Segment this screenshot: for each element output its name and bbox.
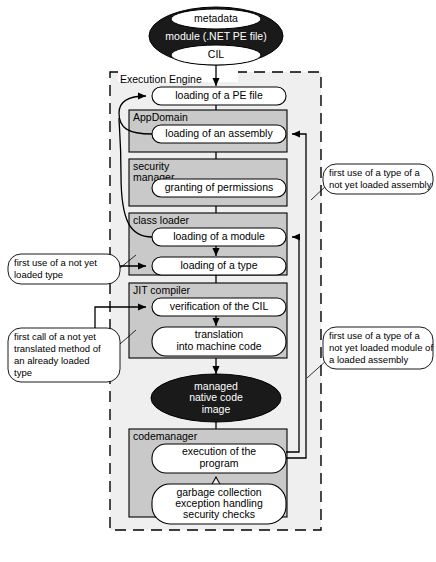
group-jit-compiler-label: JIT compiler [133, 284, 190, 296]
node-loading-module-label: loading of a module [173, 230, 265, 242]
callout-left-method-line1: first call of a not yet [14, 331, 96, 342]
execution-engine-label: Execution Engine [120, 73, 202, 85]
node-granting-permissions-label: granting of permissions [165, 181, 274, 193]
node-runtime-services-label-3: security checks [183, 508, 255, 520]
native-image-label-1: managed [194, 380, 238, 392]
callout-right-assembly-line2: not yet loaded assembly [329, 179, 432, 190]
callout-left-method-line3: an already loaded [14, 355, 90, 366]
node-loading-assembly-label: loading of an assembly [165, 127, 273, 139]
execution-engine-diagram: Execution Engine metadata module (.NET P… [0, 0, 436, 562]
node-translation-label-2: into machine code [176, 340, 261, 352]
callout-right-assembly-line1: first use of a type of a [329, 167, 421, 178]
native-image-label-2: native code [189, 391, 243, 403]
node-loading-type-label: loading of a type [180, 259, 257, 271]
callout-left-method-line4: type [14, 367, 32, 378]
diagram-canvas: Execution Engine metadata module (.NET P… [0, 0, 436, 562]
group-codemanager-label: codemanager [133, 430, 198, 442]
node-execution-program-label-2: program [199, 457, 238, 469]
node-execution-program-label-1: execution of the [182, 445, 256, 457]
callout-left-type-line2: loaded type [14, 269, 63, 280]
callout-right-module-line3: a loaded assembly [329, 354, 408, 365]
callout-right-module-line1: first use of a type of a [329, 330, 421, 341]
node-loading-pe-file-label: loading of a PE file [175, 89, 263, 101]
metadata-label: metadata [194, 12, 238, 24]
node-verification-cil-label: verification of the CIL [170, 300, 269, 312]
group-appdomain-label: AppDomain [133, 111, 188, 123]
cil-label: CIL [208, 48, 225, 60]
callout-left-method-line2: translated method of [14, 343, 101, 354]
node-translation-label-1: translation [195, 328, 244, 340]
callout-left-type-line1: first use of a not yet [14, 257, 97, 268]
callout-right-module-line2: not yet loaded module of [329, 342, 433, 353]
native-image-label-3: image [202, 403, 231, 415]
group-class-loader-label: class loader [133, 214, 190, 226]
module-label: module (.NET PE file) [165, 30, 266, 42]
